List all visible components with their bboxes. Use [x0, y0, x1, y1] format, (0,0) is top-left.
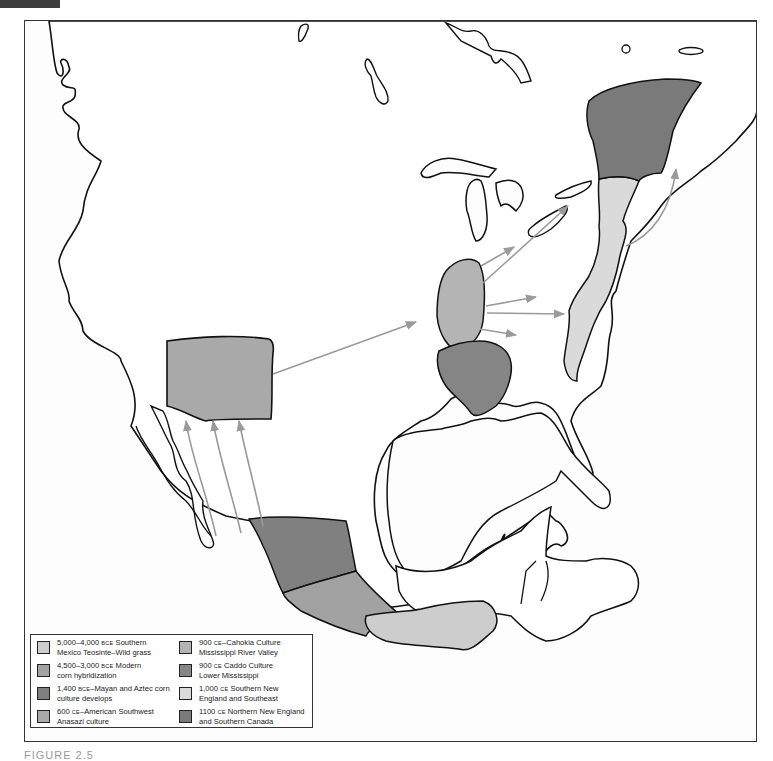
legend-label: 4,500–3,000 BCE Moderncorn hybridization	[57, 661, 141, 680]
region-cahokia	[437, 259, 484, 351]
legend-item: 4,500–3,000 BCE Moderncorn hybridization	[31, 659, 173, 682]
legend-item: 900 CE Caddo CultureLower Mississippi	[173, 659, 314, 682]
legend-item: 600 CE–American SouthwestAnasazi culture	[31, 705, 173, 728]
header-tab	[0, 0, 60, 8]
legend-swatch	[179, 664, 192, 677]
legend-label: 1,400 BCE–Mayan and Aztec cornculture de…	[57, 684, 170, 703]
legend-item: 5,000–4,000 BCE SouthernMexico Teosinte–…	[31, 636, 173, 659]
map-legend: 5,000–4,000 BCE SouthernMexico Teosinte–…	[30, 634, 313, 728]
legend-label: 900 CE–Cahokia CultureMississippi River …	[199, 638, 281, 657]
legend-item: 1,000 CE Southern NewEngland and Southea…	[173, 682, 314, 705]
region-southwest-anasazi	[167, 337, 273, 421]
legend-swatch	[37, 710, 50, 723]
legend-label: 1,000 CE Southern NewEngland and Southea…	[199, 684, 279, 703]
legend-label: 1100 CE Northern New Englandand Southern…	[199, 707, 305, 726]
legend-swatch	[179, 641, 192, 654]
legend-swatch	[37, 641, 50, 654]
legend-swatch	[179, 687, 192, 700]
island-small	[622, 45, 630, 53]
legend-item: 900 CE–Cahokia CultureMississippi River …	[173, 636, 314, 659]
legend-swatch	[37, 687, 50, 700]
island-anticosti	[679, 48, 703, 55]
legend-label: 900 CE Caddo CultureLower Mississippi	[199, 661, 273, 680]
legend-item: 1100 CE Northern New Englandand Southern…	[173, 705, 314, 728]
legend-label: 600 CE–American SouthwestAnasazi culture	[57, 707, 154, 726]
legend-item: 1,400 BCE–Mayan and Aztec cornculture de…	[31, 682, 173, 705]
legend-swatch	[179, 710, 192, 723]
legend-swatch	[37, 664, 50, 677]
arrow-to-southern-new-england	[487, 313, 564, 314]
legend-label: 5,000–4,000 BCE SouthernMexico Teosinte–…	[57, 638, 151, 657]
region-caddo	[437, 341, 511, 415]
figure-caption: FIGURE 2.5	[24, 749, 94, 761]
